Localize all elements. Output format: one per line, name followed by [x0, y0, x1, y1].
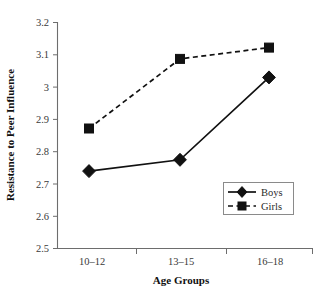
y-tick-label: 2.9	[36, 114, 49, 125]
x-tick-label: 16–18	[257, 256, 283, 267]
legend-box	[224, 183, 294, 215]
chart-legend: Boys Girls	[224, 183, 294, 215]
y-tick-label: 3	[44, 82, 49, 93]
y-tick-label: 2.5	[36, 243, 49, 254]
line-chart: 3.2 3.1 3 2.9 2.8 2.7 2.6 2.5 10–12 13–1…	[0, 0, 326, 296]
y-axis-title: Resistance to Peer Influence	[4, 69, 16, 201]
y-tick-label: 2.8	[36, 146, 49, 157]
legend-label-boys: Boys	[261, 187, 283, 198]
y-tick-label: 3.1	[36, 49, 49, 60]
x-tick-label: 10–12	[79, 256, 105, 267]
legend-marker-girls-square-icon	[238, 202, 246, 210]
x-tick-label: 13–15	[168, 256, 194, 267]
legend-label-girls: Girls	[261, 201, 282, 212]
y-tick-label: 3.2	[36, 17, 49, 28]
x-axis-title: Age Groups	[153, 274, 210, 286]
y-tick-label: 2.6	[36, 211, 49, 222]
y-tick-label: 2.7	[36, 179, 49, 190]
chart-figure: 3.2 3.1 3 2.9 2.8 2.7 2.6 2.5 10–12 13–1…	[0, 0, 326, 296]
